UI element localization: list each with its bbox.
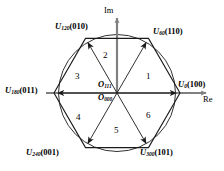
origin-sub-000: 000 bbox=[104, 96, 112, 102]
vector-label-u0: U0(100) bbox=[178, 80, 205, 90]
vector-arrow-u60 bbox=[117, 43, 146, 93]
vector-code-u120: (010) bbox=[70, 21, 88, 31]
sector-number-4: 4 bbox=[76, 113, 81, 122]
vector-label-u60: U60(110) bbox=[153, 27, 183, 37]
vector-code-u0: (100) bbox=[187, 79, 205, 89]
vector-code-u180: (011) bbox=[20, 85, 38, 95]
vector-label-u120: U120(010) bbox=[55, 22, 88, 32]
vector-sub-u300: 300 bbox=[146, 151, 154, 157]
space-vector-hexagon-figure: Im Re O111 O000 U0(100) U60(110) U120(01… bbox=[0, 0, 224, 171]
vector-sub-u120: 120 bbox=[61, 25, 69, 31]
vector-label-u240: U240(001) bbox=[26, 148, 59, 158]
vector-sub-u240: 240 bbox=[32, 151, 40, 157]
imaginary-axis-label: Im bbox=[104, 6, 113, 15]
sector-number-2: 2 bbox=[103, 51, 108, 60]
vector-code-u300: (101) bbox=[155, 147, 173, 157]
origin-sub-111: 111 bbox=[104, 83, 112, 89]
vector-arrow-u300 bbox=[117, 93, 146, 143]
vector-sub-u180: 180 bbox=[11, 89, 19, 95]
vector-label-u180: U180(011) bbox=[5, 86, 37, 96]
sector-number-1: 1 bbox=[146, 72, 151, 81]
origin-label-111: O111 bbox=[98, 80, 112, 89]
vector-code-u60: (110) bbox=[165, 26, 183, 36]
sector-number-3: 3 bbox=[75, 72, 80, 81]
sector-number-5: 5 bbox=[114, 126, 119, 135]
vector-code-u240: (001) bbox=[41, 147, 59, 157]
sector-number-6: 6 bbox=[146, 111, 151, 120]
vector-label-u300: U300(101) bbox=[140, 148, 173, 158]
real-axis-label: Re bbox=[203, 95, 212, 104]
origin-label-000: O000 bbox=[98, 93, 112, 102]
